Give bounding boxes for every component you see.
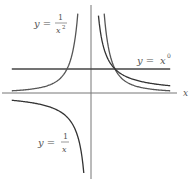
label-denominator: x [62, 145, 67, 154]
label-exponent: 0 [167, 52, 171, 59]
label-lhs: y = [37, 137, 55, 148]
label-denominator: x [56, 26, 61, 35]
label-inverse-square: y = 1 x 2 [33, 13, 67, 35]
x-axis-label: x [183, 88, 188, 98]
label-inverse: y = 1 x [37, 132, 69, 154]
label-lhs: y = [136, 55, 154, 66]
label-numerator: 1 [63, 132, 68, 141]
function-plot: y = 1 x 2 y = x 0 y = 1 x x [0, 0, 194, 187]
label-exponent: 2 [62, 24, 66, 30]
curve-inverse-square-right [104, 14, 170, 91]
label-constant: y = x 0 [136, 52, 171, 66]
label-lhs: y = [33, 18, 51, 29]
label-base: x [160, 55, 166, 66]
label-numerator: 1 [58, 13, 63, 22]
